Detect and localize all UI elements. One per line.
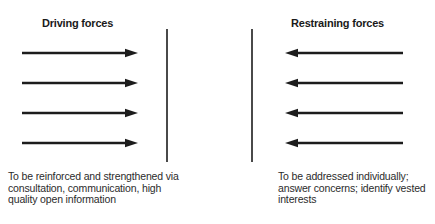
- force-arrow-right: [22, 138, 138, 148]
- right-barrier-line: [251, 29, 253, 162]
- restraining-forces-arrows: [285, 48, 403, 148]
- driving-forces-note: To be reinforced and strengthened via co…: [8, 171, 193, 206]
- force-arrow-left: [285, 138, 403, 148]
- force-field-diagram: Driving forces Restraining forces To be …: [0, 0, 435, 224]
- driving-forces-title: Driving forces: [42, 17, 113, 29]
- force-arrow-left: [285, 48, 403, 58]
- left-barrier-line: [166, 29, 168, 162]
- force-arrow-left: [285, 78, 403, 88]
- driving-forces-arrows: [22, 48, 138, 148]
- restraining-forces-title: Restraining forces: [291, 17, 384, 29]
- force-arrow-left: [285, 108, 403, 118]
- force-arrow-right: [22, 78, 138, 88]
- force-arrow-right: [22, 108, 138, 118]
- force-arrow-right: [22, 48, 138, 58]
- restraining-forces-note: To be addressed individually; answer con…: [278, 171, 428, 206]
